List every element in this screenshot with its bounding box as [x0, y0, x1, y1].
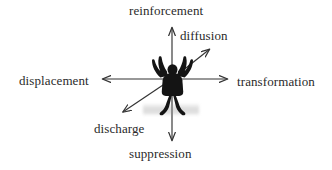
axis-label-displacement: displacement: [19, 74, 89, 88]
axis-label-reinforcement: reinforcement: [129, 4, 203, 18]
axis-label-diffusion: diffusion: [180, 29, 228, 43]
diagram-canvas: reinforcement diffusion transformation s…: [0, 0, 332, 170]
axis-label-discharge: discharge: [94, 122, 144, 136]
axis-label-suppression: suppression: [129, 147, 192, 161]
human-silhouette-icon: [145, 47, 201, 119]
axis-label-transformation: transformation: [237, 75, 315, 89]
